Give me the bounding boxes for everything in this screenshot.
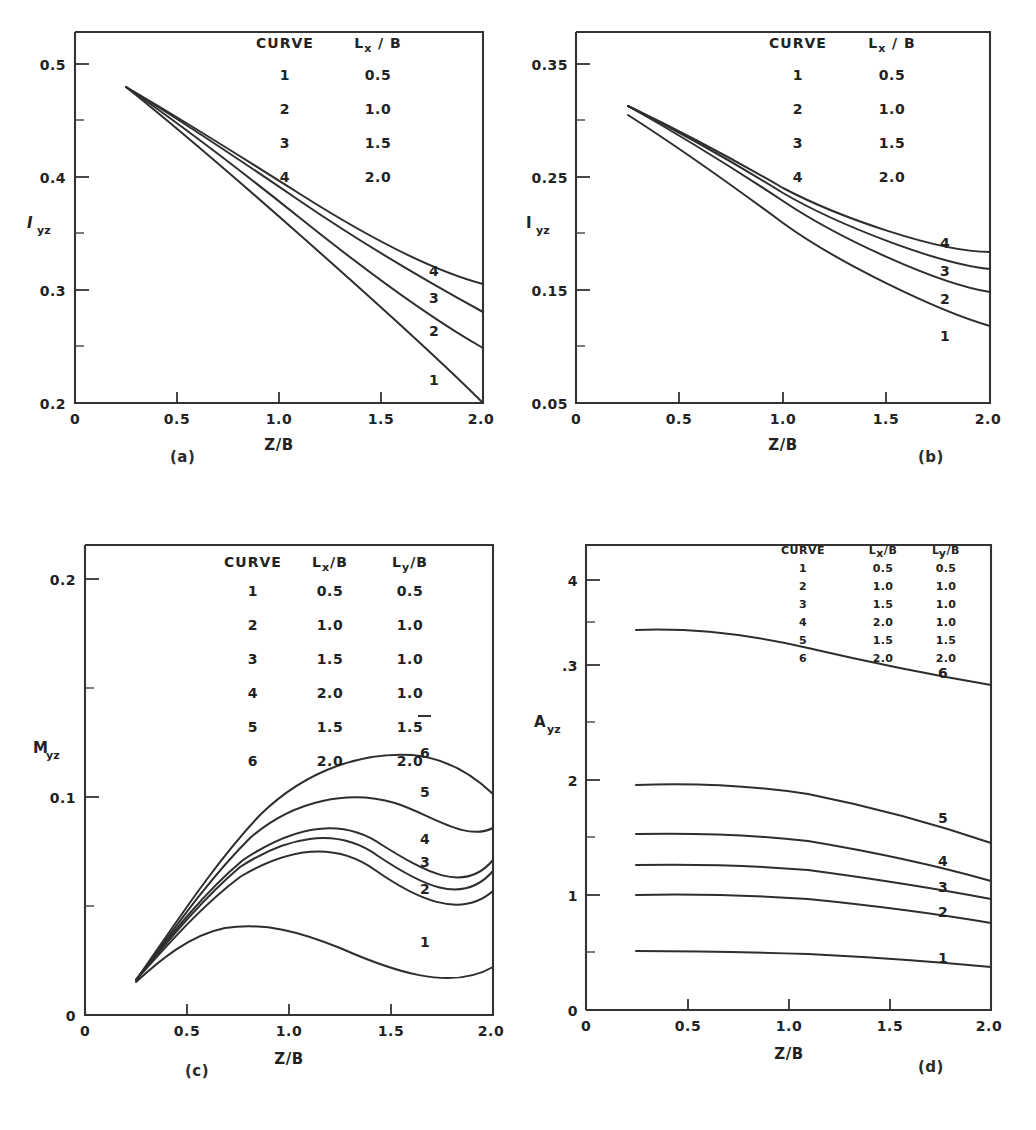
curve-label-b-4: 4 — [940, 235, 950, 251]
svg-text:yz: yz — [547, 723, 561, 736]
legend-cell-b-curve-4: 4 — [793, 169, 803, 185]
legend-cell-c-curve-3: 3 — [248, 651, 258, 667]
curve-label-b-3: 3 — [940, 263, 950, 279]
curve-label-b-1: 1 — [940, 328, 950, 344]
x-axis-title-c: Z/B — [274, 1050, 304, 1068]
legend-cell-d-lx-1: 0.5 — [873, 562, 894, 575]
legend-cell-d-curve-4: 4 — [799, 616, 807, 629]
x-axis-ticks-c — [187, 1004, 391, 1015]
curve-b-1 — [628, 115, 990, 326]
legend-cell-c-lx-5: 1.5 — [317, 719, 344, 735]
legend-cell-d-lx-3: 1.5 — [873, 598, 894, 611]
x-tick-label-a-3: 1.5 — [368, 411, 394, 427]
curve-label-d-3: 3 — [938, 879, 948, 895]
y-tick-label-a-0: 0.5 — [40, 57, 66, 73]
x-axis-title-a: Z/B — [264, 436, 294, 454]
curve-label-c-5: 5 — [420, 784, 430, 800]
plot-frame-d — [586, 545, 991, 1010]
x-axis-title-b: Z/B — [768, 436, 798, 454]
x-tick-label-b-0: 0 — [571, 411, 581, 427]
svg-text:yz: yz — [46, 749, 60, 762]
x-tick-label-d-2: 1.0 — [776, 1018, 802, 1034]
x-tick-label-d-4: 2.0 — [976, 1018, 1002, 1034]
y-tick-label-d-3: .3 — [562, 658, 578, 674]
legend-b: CURVE Lx / B 1 0.5 2 1.0 3 1.5 4 2.0 — [769, 35, 916, 185]
svg-text:I: I — [526, 214, 532, 232]
y-axis-title-a: I yz — [27, 214, 51, 237]
legend-cell-c-ly-5: 1.5 — [397, 719, 424, 735]
panel-caption-a: (a) — [170, 448, 195, 466]
legend-cell-d-curve-6: 6 — [799, 652, 807, 665]
legend-cell-b-curve-2: 2 — [793, 101, 803, 117]
x-axis-ticks-b — [679, 392, 886, 403]
curves-b — [628, 106, 990, 326]
y-tick-label-a-2: 0.3 — [40, 283, 66, 299]
y-tick-label-c-2: 0.2 — [50, 572, 76, 588]
x-tick-label-a-4: 2.0 — [468, 411, 494, 427]
x-tick-label-b-1: 0.5 — [666, 411, 692, 427]
figure-container: 4 3 2 1 0.5 0.4 0.3 0.2 I yz 0 0.5 1.0 1… — [0, 0, 1036, 1130]
curve-a-1 — [126, 87, 483, 403]
y-axis-title-c: M yz — [33, 739, 60, 762]
legend-cell-d-ly-6: 2.0 — [936, 652, 957, 665]
legend-cell-c-curve-1: 1 — [248, 583, 258, 599]
panel-d: 6 5 4 3 2 1 4 .3 2 1 0 A yz 0 0.5 1.0 1.… — [518, 470, 1036, 1130]
legend-cell-d-curve-5: 5 — [799, 634, 807, 647]
plot-frame-b — [576, 32, 990, 403]
legend-header-c-curve: CURVE — [224, 554, 282, 570]
legend-c: CURVE Lx/B Ly/B 1 0.5 0.5 2 1.0 1.0 3 1.… — [224, 554, 428, 769]
legend-cell-c-ly-4: 1.0 — [397, 685, 424, 701]
x-tick-label-a-1: 0.5 — [164, 411, 190, 427]
legend-cell-b-lx-1: 0.5 — [879, 67, 906, 83]
svg-text:I: I — [27, 214, 33, 232]
curve-label-c-4: 4 — [420, 831, 430, 847]
legend-cell-a-lx-4: 2.0 — [365, 169, 392, 185]
x-tick-label-c-4: 2.0 — [478, 1023, 504, 1039]
curve-label-d-5: 5 — [938, 810, 948, 826]
legend-cell-b-lx-2: 1.0 — [879, 101, 906, 117]
y-axis-title-d: A yz — [534, 713, 561, 736]
legend-cell-b-curve-1: 1 — [793, 67, 803, 83]
y-axis-ticks-c — [85, 579, 99, 906]
curve-label-b-2: 2 — [940, 291, 950, 307]
y-tick-label-b-2: 0.15 — [531, 283, 568, 299]
curve-label-c-3: 3 — [420, 854, 430, 870]
legend-cell-c-lx-2: 1.0 — [317, 617, 344, 633]
legend-cell-b-curve-3: 3 — [793, 135, 803, 151]
y-tick-label-b-0: 0.35 — [531, 57, 568, 73]
legend-cell-b-lx-4: 2.0 — [879, 169, 906, 185]
curve-label-a-3: 3 — [429, 290, 439, 306]
plot-frame-c — [85, 545, 493, 1015]
curve-label-d-4: 4 — [938, 853, 948, 869]
legend-cell-c-curve-2: 2 — [248, 617, 258, 633]
legend-cell-c-curve-5: 5 — [248, 719, 258, 735]
legend-cell-c-lx-4: 2.0 — [317, 685, 344, 701]
curve-label-a-4: 4 — [429, 263, 439, 279]
x-tick-label-c-0: 0 — [80, 1023, 90, 1039]
curve-a-4 — [126, 87, 483, 284]
curve-b-4 — [628, 106, 990, 252]
curve-label-d-1: 1 — [938, 950, 948, 966]
legend-cell-d-ly-1: 0.5 — [936, 562, 957, 575]
y-axis-ticks-a — [75, 64, 89, 346]
x-tick-label-c-1: 0.5 — [174, 1023, 200, 1039]
svg-text:A: A — [534, 713, 546, 731]
legend-cell-d-lx-2: 1.0 — [873, 580, 894, 593]
legend-cell-c-ly-3: 1.0 — [397, 651, 424, 667]
legend-cell-c-curve-4: 4 — [248, 685, 258, 701]
legend-header-a-curve: CURVE — [256, 35, 314, 51]
legend-cell-d-curve-1: 1 — [799, 562, 807, 575]
legend-header-d-lx: Lx/B — [869, 544, 898, 560]
curves-a — [126, 87, 483, 403]
legend-cell-a-curve-1: 1 — [280, 67, 290, 83]
x-tick-label-b-2: 1.0 — [770, 411, 796, 427]
curve-c-6 — [136, 755, 493, 980]
legend-cell-d-lx-5: 1.5 — [873, 634, 894, 647]
y-axis-ticks-d — [586, 580, 600, 952]
y-tick-label-c-1: 0.1 — [50, 790, 76, 806]
legend-cell-d-curve-2: 2 — [799, 580, 807, 593]
legend-cell-a-curve-4: 4 — [280, 169, 290, 185]
legend-cell-a-lx-3: 1.5 — [365, 135, 392, 151]
curve-label-c-2: 2 — [420, 881, 430, 897]
legend-cell-c-ly-2: 1.0 — [397, 617, 424, 633]
